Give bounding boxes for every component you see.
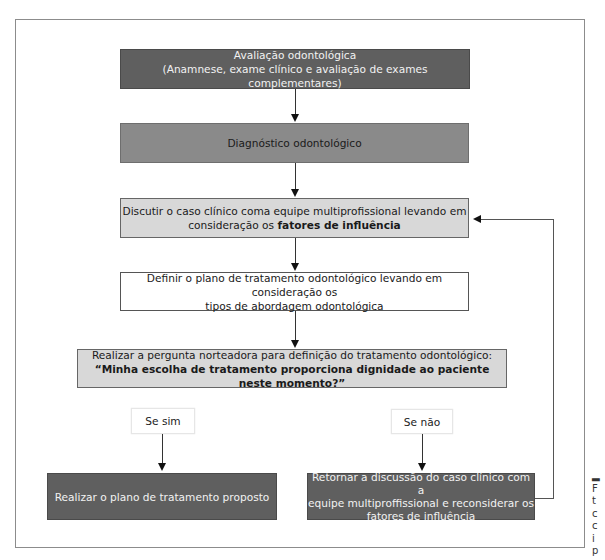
branch-label-no: Se não (391, 409, 453, 434)
node-return-discussion: Retornar a discussão do caso clínico com… (307, 473, 535, 520)
node-execute-plan: Realizar o plano de tratamento proposto (47, 473, 277, 520)
arrow-down-icon (291, 189, 299, 197)
influence-factors-emphasis: fatores de influência (277, 219, 400, 231)
feedback-line-bottom (535, 498, 554, 499)
arrow-down-icon (158, 463, 166, 471)
node-discuss-line2: consideração os fatores de influência (188, 218, 400, 232)
node-return-line2: equipe multiproffissional e reconsiderar… (308, 497, 534, 510)
connector-2 (295, 163, 296, 190)
node-discuss: Discutir o caso clínico coma equipe mult… (120, 198, 469, 238)
node-guiding-question: Realizar a pergunta norteadora para defi… (77, 349, 507, 388)
arrow-down-icon (291, 114, 299, 122)
node-execute-plan-text: Realizar o plano de tratamento proposto (55, 490, 270, 504)
node-define-plan: Definir o plano de tratamento odontológi… (120, 272, 469, 311)
feedback-line-top (480, 219, 554, 220)
connector-1 (295, 89, 296, 115)
arrow-left-icon (473, 215, 481, 223)
feedback-line-vertical (553, 219, 554, 499)
connector-3 (295, 238, 296, 264)
node-return-line3: fatores de influência (367, 510, 476, 523)
connector-yes (162, 434, 163, 464)
node-diagnosis: Diagnóstico odontológico (120, 123, 469, 163)
node-define-plan-line1: Definir o plano de tratamento odontológi… (121, 271, 468, 299)
node-evaluation-title: Avaliação odontológica (234, 48, 356, 62)
connector-no (422, 434, 423, 464)
node-return-line1: Retornar a discussão do caso clínico com… (308, 471, 534, 497)
guiding-question-text: “Minha escolha de tratamento proporciona… (78, 362, 506, 390)
caption-bold-mark: ▂ (592, 470, 605, 483)
connector-4 (295, 311, 296, 341)
node-discuss-line1: Discutir o caso clínico coma equipe mult… (123, 204, 467, 218)
node-diagnosis-text: Diagnóstico odontológico (227, 136, 361, 150)
node-evaluation-subtitle: (Anamnese, exame clínico e avaliação de … (121, 62, 469, 90)
branch-label-yes: Se sim (131, 408, 195, 434)
node-guiding-question-line1: Realizar a pergunta norteadora para defi… (92, 348, 492, 362)
node-evaluation: Avaliação odontológica (Anamnese, exame … (120, 49, 470, 89)
figure-caption-fragment: ▂ F t c c i p (592, 470, 605, 558)
